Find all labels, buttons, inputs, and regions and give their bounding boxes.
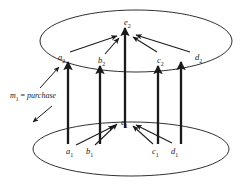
annotation-leader-upper bbox=[40, 67, 59, 88]
node-label-d2: d2 bbox=[195, 53, 202, 62]
edge-a1-to-e1 bbox=[76, 126, 114, 145]
node-label-b2: b2 bbox=[98, 56, 105, 65]
node-label-a2: a2 bbox=[58, 53, 65, 62]
node-label-c2: c2 bbox=[157, 56, 164, 65]
diagram-canvas: e2 a2 b2 c2 d2 e1 a1 b1 c1 d1 m1 = purch… bbox=[0, 0, 244, 189]
node-label-e2: e2 bbox=[124, 18, 131, 27]
lower-level-ellipse bbox=[33, 122, 229, 176]
morphism-label: m1 = purchase bbox=[10, 92, 56, 100]
annotation-leader-lower bbox=[33, 106, 52, 122]
node-label-a1: a1 bbox=[66, 147, 73, 156]
node-label-b1: b1 bbox=[86, 147, 93, 156]
edge-b2-to-e2 bbox=[105, 38, 119, 54]
edge-b1-to-e1 bbox=[95, 124, 117, 145]
edge-a2-to-e2 bbox=[70, 36, 117, 52]
node-label-d1: d1 bbox=[171, 147, 178, 156]
node-label-c1: c1 bbox=[152, 147, 159, 156]
edge-c2-to-e2 bbox=[133, 37, 157, 52]
node-label-e1: e1 bbox=[121, 118, 128, 127]
